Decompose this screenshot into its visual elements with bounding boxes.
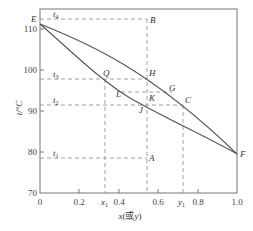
phase-diagram: E F B H Q L K G J C A t4 t3 t2 t1 70 80 … (0, 0, 253, 231)
label-K: K (148, 93, 156, 103)
dew-point-curve (40, 24, 237, 154)
y1-marker: y1 (177, 197, 185, 208)
bubble-point-curve (40, 24, 237, 154)
axis-ticks (40, 29, 198, 193)
label-C: C (185, 95, 192, 105)
x1-marker: x1 (100, 197, 108, 208)
label-J: J (139, 105, 144, 115)
svg-text:0.8: 0.8 (192, 197, 204, 207)
svg-text:t3: t3 (53, 69, 59, 80)
label-H: H (148, 68, 156, 78)
guide-lines (40, 19, 183, 193)
svg-text:t4: t4 (53, 9, 59, 20)
label-L: L (115, 89, 121, 99)
svg-text:110: 110 (24, 24, 38, 34)
x-axis-title: x(或y) (118, 210, 142, 221)
y-tick-labels: 70 80 90 100 110 (24, 24, 38, 198)
point-labels: E F B H Q L K G J C A (30, 14, 246, 163)
label-B: B (150, 15, 156, 25)
svg-text:100: 100 (24, 65, 38, 75)
label-Q: Q (103, 68, 110, 78)
label-E: E (30, 14, 37, 24)
svg-text:70: 70 (28, 188, 38, 198)
svg-text:0.2: 0.2 (73, 197, 84, 207)
svg-text:0: 0 (38, 197, 43, 207)
svg-text:0.6: 0.6 (152, 197, 164, 207)
y-axis-title: t/°C (14, 100, 24, 116)
label-A: A (148, 153, 155, 163)
x-tick-labels: 0 0.2 0.4 0.6 0.8 1.0 (38, 197, 243, 207)
label-F: F (239, 149, 246, 159)
svg-text:90: 90 (28, 106, 38, 116)
label-G: G (169, 83, 176, 93)
svg-text:t1: t1 (53, 148, 59, 159)
svg-text:1.0: 1.0 (231, 197, 243, 207)
svg-text:t2: t2 (53, 95, 59, 106)
svg-text:0.4: 0.4 (113, 197, 125, 207)
svg-text:80: 80 (28, 147, 38, 157)
